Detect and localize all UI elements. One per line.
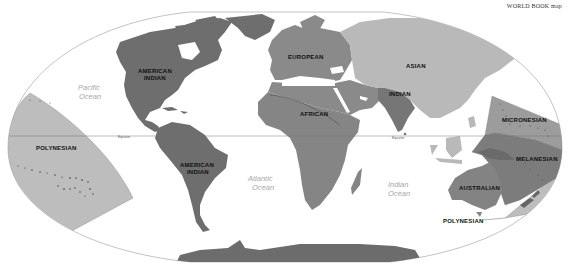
label-pacific-ocean-2: Ocean: [79, 92, 101, 101]
label-indian-ocean-2: Ocean: [388, 189, 410, 198]
label-african: AFRICAN: [300, 111, 328, 117]
label-indian: INDIAN: [389, 91, 411, 97]
label-melanesian: MELANESIAN: [516, 156, 558, 162]
label-polynesian-west: POLYNESIAN: [36, 145, 76, 151]
label-polynesian-east: POLYNESIAN: [443, 218, 483, 224]
label-american-indian-north-1: AMERICAN: [138, 68, 172, 74]
label-american-indian-south-1: AMERICAN: [180, 162, 214, 168]
label-asian: ASIAN: [406, 63, 426, 69]
landmass-british-isles: [275, 40, 283, 54]
label-micronesian: MICRONESIAN: [502, 117, 547, 123]
world-map: Equator Equator AMERICAN INDIAN AMERICAN…: [0, 0, 570, 265]
label-american-indian-north-2: INDIAN: [144, 75, 166, 81]
equator-label-west: Equator: [118, 135, 131, 139]
label-atlantic-ocean-1: Atlantic: [247, 174, 273, 183]
label-pacific-ocean-1: Pacific: [78, 83, 100, 92]
label-american-indian-south-2: INDIAN: [187, 169, 209, 175]
label-european: EUROPEAN: [288, 54, 324, 60]
equator-label-east: Equator: [392, 136, 405, 140]
label-indian-ocean-1: Indian: [388, 180, 408, 189]
label-atlantic-ocean-2: Ocean: [252, 183, 274, 192]
label-australian: AUSTRALIAN: [459, 185, 500, 191]
